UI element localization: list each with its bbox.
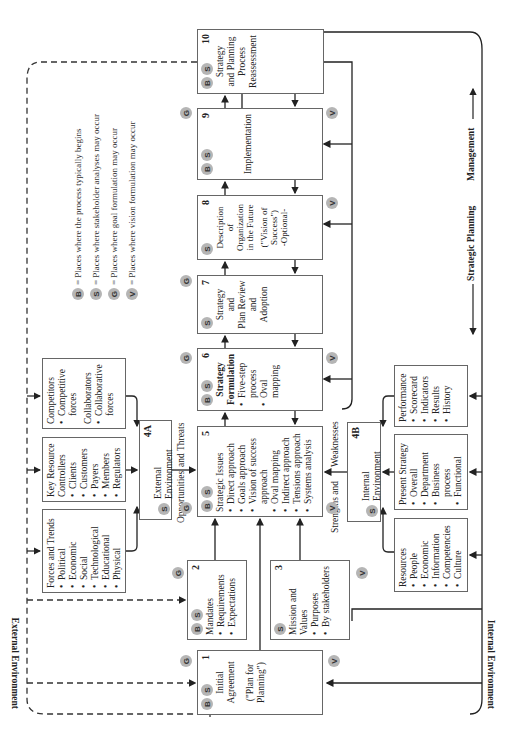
badge-s-icon: S xyxy=(201,684,213,696)
badge-s-icon: S xyxy=(366,505,378,517)
strategic-planning-label: Strategic Planning xyxy=(466,206,476,281)
legend-item-begins: B = Places where the process typically b… xyxy=(72,128,84,300)
step-3-mission-values: S 3 Mission and Values PurposesBy stakeh… xyxy=(270,560,350,640)
badge-s-icon: S xyxy=(201,486,213,498)
badge-v-icon: V xyxy=(326,352,338,364)
step-8-vision-of-success: S 8 Description of Organization in the F… xyxy=(197,195,323,260)
badge-v-icon: V xyxy=(328,655,340,667)
present-strategy-box: Present Strategy Overall Department Busi… xyxy=(394,434,468,510)
badge-s-icon: S xyxy=(201,380,213,392)
forces-and-trends-box: Forces and Trends Political Economic Soc… xyxy=(42,509,126,593)
internal-environment-label: Internal Environment xyxy=(486,620,496,709)
badge-s-icon: S xyxy=(274,623,286,635)
weaknesses-label: Weaknesses xyxy=(330,421,340,467)
badge-g-icon: G xyxy=(180,502,192,514)
badge-s-icon: S xyxy=(201,317,213,329)
badge-b-icon: B xyxy=(201,163,213,175)
badge-s-icon: S xyxy=(201,149,213,161)
badge-b-icon: B xyxy=(201,698,213,710)
badge-s-icon: S xyxy=(191,609,203,621)
badge-g-icon: G xyxy=(108,288,120,300)
badge-s-icon: S xyxy=(201,63,213,75)
step-6-strategy-formulation: BS 6 Strategy Formulation Five-step proc… xyxy=(197,348,323,411)
resources-box: Resources People Economic Information Co… xyxy=(394,518,468,592)
key-resource-controllers-box: Key Resource Controllers Clients Custome… xyxy=(42,437,126,502)
step-10-reassessment: BS 10 Strategy and Planning Process Reas… xyxy=(197,29,324,94)
badge-s-icon: S xyxy=(158,503,170,515)
opportunities-label: Opportunities xyxy=(176,471,186,523)
legend-item-goal: G = Places where goal formulation may oc… xyxy=(108,128,120,300)
badge-b-icon: B xyxy=(201,500,213,512)
badge-g-icon: G xyxy=(172,567,184,579)
legend-item-stakeholder: S = Places where stakeholder analyses ma… xyxy=(90,114,102,300)
badge-s-icon: S xyxy=(90,288,102,300)
performance-box: Performance Scorecard Indicators Results… xyxy=(394,365,468,427)
and-threats-label: and Threats xyxy=(176,423,186,467)
badge-v-icon: V xyxy=(356,567,368,579)
external-environment-label: External Environment xyxy=(10,618,20,709)
badge-v-icon: V xyxy=(326,107,338,119)
badge-v-icon: V xyxy=(326,197,338,209)
competitors-collaborators-box: Competitors Competitive forces Collabora… xyxy=(42,358,126,429)
step-5-strategic-issues: BS 5 Strategic Issues Direct approach Go… xyxy=(197,426,323,517)
badge-b-icon: B xyxy=(191,623,203,635)
step-2-mandates: BS 2 Mandates RequirementsExpectations xyxy=(187,560,247,640)
badge-v-icon: V xyxy=(326,502,338,514)
step-4a-external-environment: 4A S External Environment xyxy=(139,420,172,520)
step-1-initial-agreement: BS 1 Initial Agreement ("Plan for Planni… xyxy=(197,650,323,715)
management-label: Management xyxy=(466,128,476,181)
badge-b-icon: B xyxy=(201,77,213,89)
badge-g-icon: G xyxy=(180,655,192,667)
step-9-implementation: BS 9 Implementation xyxy=(197,108,323,180)
strategy-change-cycle-diagram: B = Places where the process typically b… xyxy=(0,0,507,729)
badge-b-icon: B xyxy=(72,288,84,300)
step-4b-internal-environment: 4B S Internal Environment xyxy=(347,422,381,522)
badge-b-icon: B xyxy=(201,394,213,406)
badge-s-icon: S xyxy=(201,243,213,255)
legend-item-vision: V = Places where vision formulation may … xyxy=(126,121,138,300)
badge-g-icon: G xyxy=(180,107,192,119)
badge-g-icon: G xyxy=(180,352,192,364)
badge-v-icon: V xyxy=(126,288,138,300)
step-7-plan-review-adoption: S 7 Strategy and Plan Review and Adoptio… xyxy=(197,275,323,334)
badge-g-icon: G xyxy=(180,275,192,287)
